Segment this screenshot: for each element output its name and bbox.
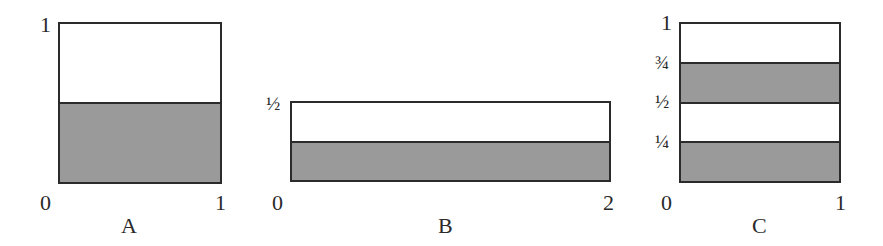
panel-c-label: C: [752, 215, 767, 237]
panel-a-label: A: [121, 215, 137, 237]
panel-a-x-tick-0: 0: [40, 192, 51, 214]
panel-c-x-tick-1: 1: [835, 192, 846, 214]
panel-b-x-tick-2: 2: [603, 192, 614, 214]
panel-b-x-tick-0: 0: [272, 192, 283, 214]
panel-a-shaded-region: [60, 102, 220, 182]
panel-a-y-tick-1: 1: [40, 14, 51, 36]
panel-b-y-tick-half: ½: [266, 93, 280, 115]
panel-c-y-tick-quarter: ¼: [655, 131, 669, 153]
panel-a-x-tick-1: 1: [215, 192, 226, 214]
panel-b-shaded-region: [292, 141, 609, 180]
panel-c-y-tick-half: ½: [655, 91, 669, 113]
panel-c-y-tick-three-quarters: ¾: [655, 52, 669, 74]
panel-c-x-tick-0: 0: [661, 192, 672, 214]
panel-c-divider-half: [681, 102, 839, 104]
panel-b-label: B: [438, 215, 453, 237]
panel-c-y-tick-1: 1: [661, 12, 672, 34]
panel-c-rectangle: [679, 22, 841, 183]
panel-b-rectangle: [290, 101, 611, 182]
panel-a-rectangle: [58, 22, 222, 184]
panel-c-shaded-band-upper: [681, 62, 839, 104]
panel-c-shaded-band-lower: [681, 141, 839, 181]
